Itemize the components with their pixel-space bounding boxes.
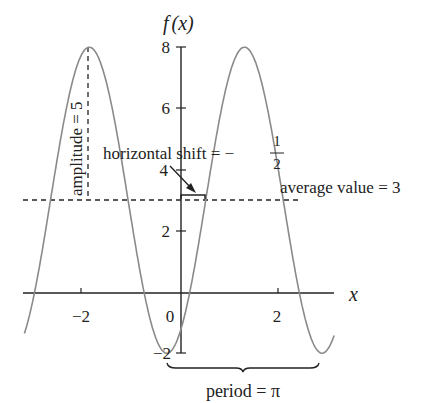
sinusoid-chart: f(x) x −2 0 2 8 6 4 2 −2 amplitude = 5 a… bbox=[0, 0, 423, 403]
period-label: period = π bbox=[206, 381, 280, 401]
y-tick-label-8: 8 bbox=[162, 38, 171, 57]
x-tick-label-2: 2 bbox=[273, 307, 282, 326]
horizontal-shift-label: horizontal shift = − bbox=[103, 144, 234, 163]
y-tick-label-2: 2 bbox=[162, 222, 171, 241]
average-value-label: average value = 3 bbox=[280, 178, 401, 197]
y-tick-label-4: 4 bbox=[160, 161, 169, 180]
shift-fraction-numerator: 1 bbox=[273, 133, 281, 149]
horizontal-shift-bracket bbox=[181, 195, 205, 199]
x-axis-label: x bbox=[348, 283, 358, 305]
amplitude-label: amplitude = 5 bbox=[67, 101, 86, 196]
period-brace bbox=[167, 363, 319, 372]
x-tick-label-m2: −2 bbox=[72, 307, 90, 326]
shift-fraction-denominator: 2 bbox=[273, 156, 281, 172]
x-tick-label-0: 0 bbox=[166, 307, 175, 326]
y-tick-label-m2: −2 bbox=[153, 344, 171, 363]
y-axis-label: f(x) bbox=[163, 12, 194, 35]
y-tick-label-6: 6 bbox=[162, 99, 171, 118]
